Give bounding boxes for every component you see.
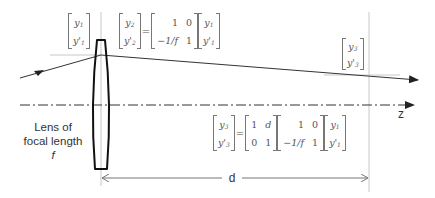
input-ray-vector: y1 y'1 bbox=[68, 13, 90, 49]
after-lens-y-prime: y'2 bbox=[124, 35, 136, 46]
z-axis-label: z bbox=[395, 107, 407, 121]
lens-eq-input-y-prime: y'1 bbox=[203, 35, 215, 46]
prop-matrix-a: 1 bbox=[251, 119, 257, 130]
after-lens-vector: y2 y'2 bbox=[119, 13, 141, 49]
lens-matrix-d: 1 bbox=[186, 35, 192, 46]
lens-matrix-c: −1/f bbox=[157, 35, 178, 46]
distance-label: d bbox=[225, 171, 239, 185]
sys-lens-matrix-c: −1/f bbox=[283, 137, 304, 148]
system-output-y: y3 bbox=[219, 119, 228, 130]
lens-label-line3: f bbox=[18, 148, 88, 162]
system-lens-matrix: 1 0 −1/f 1 bbox=[277, 115, 324, 151]
equals-sign: = bbox=[235, 128, 245, 139]
input-y-prime: y'1 bbox=[73, 35, 85, 46]
sys-lens-matrix-a: 1 bbox=[283, 119, 304, 130]
after-lens-y: y2 bbox=[125, 17, 134, 28]
sys-lens-matrix-b: 0 bbox=[312, 119, 318, 130]
thin-lens-diagram: y1 y'1 y2 y'2 = 1 0 −1/f 1 bbox=[0, 0, 435, 198]
incoming-ray-arrow-icon bbox=[34, 70, 44, 76]
sys-lens-matrix-d: 1 bbox=[312, 137, 318, 148]
input-y: y1 bbox=[74, 17, 83, 28]
lens-equation-input-vector: y1 y'1 bbox=[198, 13, 220, 49]
equals-sign: = bbox=[141, 26, 151, 37]
outgoing-ray bbox=[101, 55, 418, 80]
lens-equation: y2 y'2 = 1 0 −1/f 1 y1 y'1 bbox=[119, 13, 220, 49]
output-y: y3 bbox=[348, 41, 357, 52]
incoming-ray bbox=[20, 55, 101, 78]
output-ray-vector: y3 y'3 bbox=[342, 38, 364, 70]
system-input-y-prime: y'1 bbox=[329, 137, 341, 148]
prop-matrix-d: 1 bbox=[265, 137, 271, 148]
lens-label-line2: focal length bbox=[18, 134, 88, 148]
lens-matrix-a: 1 bbox=[157, 17, 178, 28]
system-output-vector: y3 y'3 bbox=[213, 115, 235, 151]
lens-matrix-b: 0 bbox=[186, 17, 192, 28]
propagation-matrix: 1 d 0 1 bbox=[245, 115, 277, 151]
system-input-vector: y1 y'1 bbox=[324, 115, 346, 151]
lens-eq-input-y: y1 bbox=[204, 17, 213, 28]
system-output-y-prime: y'3 bbox=[218, 137, 230, 148]
lens-label-line1: Lens of bbox=[18, 120, 88, 134]
system-equation: y3 y'3 = 1 d 0 1 1 0 −1/f 1 bbox=[213, 115, 346, 151]
lens-label: Lens of focal length f bbox=[18, 120, 88, 162]
output-y-prime: y'3 bbox=[347, 57, 359, 68]
system-input-y: y1 bbox=[330, 119, 339, 130]
lens-matrix: 1 0 −1/f 1 bbox=[151, 13, 198, 49]
prop-matrix-c: 0 bbox=[251, 137, 257, 148]
prop-matrix-b: d bbox=[265, 119, 271, 130]
